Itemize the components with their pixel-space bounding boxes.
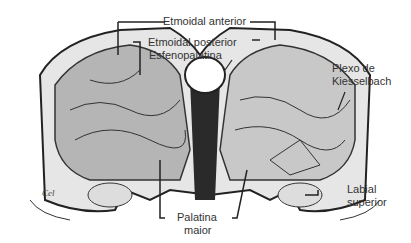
label-etmoidal-anterior: Etmoidal anterior bbox=[163, 15, 246, 27]
label-plexo-line1: Plexo de bbox=[332, 62, 375, 74]
nasal-septum-arteries-diagram: Cel Etmoidal anterior Etmoidal posterior… bbox=[0, 0, 411, 243]
label-palatina-line1: Palatina bbox=[177, 211, 217, 223]
label-plexo-line2: Kiesselbach bbox=[332, 75, 391, 87]
label-labial-line2: superior bbox=[347, 196, 387, 208]
label-palatina-line2: maior bbox=[184, 224, 212, 236]
label-labial-line1: Labial bbox=[347, 183, 376, 195]
label-esfenopalatina: Esfenopalatina bbox=[149, 49, 222, 61]
label-etmoidal-posterior: Etmoidal posterior bbox=[148, 36, 237, 48]
artist-signature: Cel bbox=[42, 188, 55, 198]
